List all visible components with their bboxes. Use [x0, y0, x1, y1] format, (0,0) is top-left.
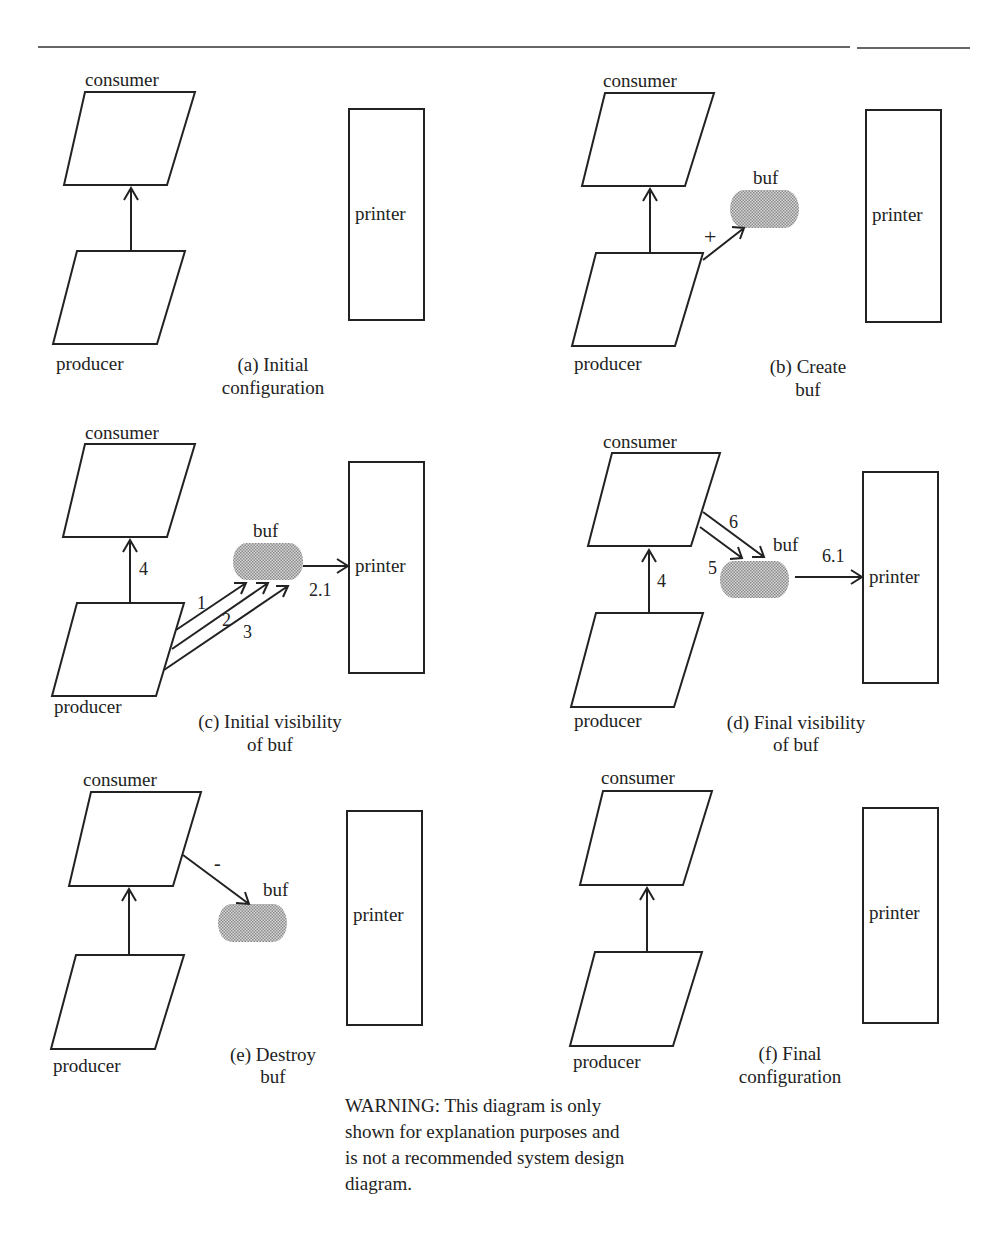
edge-producer-consumer	[642, 550, 656, 613]
create-plus-label: +	[704, 224, 716, 249]
panel-f: consumer producer printer (f) Final conf…	[570, 767, 938, 1087]
consumer-node	[63, 444, 195, 537]
edge-producer-consumer	[123, 540, 137, 603]
printer-label: printer	[869, 902, 920, 923]
printer-label: printer	[869, 566, 920, 587]
edge-producer-consumer	[643, 189, 657, 253]
edge-producer-buf-2	[172, 583, 268, 649]
producer-label: producer	[54, 696, 122, 717]
caption-line-2: configuration	[739, 1066, 842, 1087]
consumer-node	[588, 453, 720, 546]
edge-buf-printer	[795, 570, 862, 584]
consumer-label: consumer	[601, 767, 676, 788]
caption-line-1: (c) Initial visibility	[198, 711, 342, 733]
producer-label: producer	[53, 1055, 121, 1076]
printer-label: printer	[872, 204, 923, 225]
caption-line-2: buf	[795, 379, 821, 400]
consumer-node	[582, 93, 714, 186]
caption-line-1: (e) Destroy	[230, 1044, 316, 1066]
buf-node	[233, 543, 303, 580]
edge-producer-consumer	[640, 888, 654, 952]
warning-line: WARNING: This diagram is only	[345, 1093, 685, 1119]
producer-node	[571, 613, 703, 707]
edge-label-6-1: 6.1	[822, 546, 845, 566]
consumer-label: consumer	[85, 69, 160, 90]
caption-line-2: buf	[260, 1066, 286, 1087]
producer-node	[570, 952, 702, 1046]
producer-label: producer	[56, 353, 124, 374]
edge-label-3: 3	[243, 622, 252, 642]
edge-label-2-1: 2.1	[309, 580, 332, 600]
edge-label-4: 4	[657, 571, 666, 591]
buf-label: buf	[253, 520, 279, 541]
caption-line-2: of buf	[773, 734, 820, 755]
panel-c: 4 1 2 3 2.1 consumer producer buf printe…	[52, 422, 424, 755]
caption-line-1: (a) Initial	[237, 354, 308, 376]
edge-label-4: 4	[139, 559, 148, 579]
buf-label: buf	[773, 534, 799, 555]
caption-line-1: (b) Create	[770, 356, 846, 378]
warning-line: diagram.	[345, 1171, 685, 1197]
edge-label-2: 2	[222, 610, 231, 630]
edge-label-5: 5	[708, 558, 717, 578]
producer-node	[572, 253, 703, 346]
panel-d: 4 5 6 6.1 consumer producer buf printer …	[571, 431, 938, 755]
edge-label-1: 1	[197, 593, 206, 613]
figure-canvas: consumer producer printer (a) Initial co…	[0, 0, 1003, 1258]
buf-label: buf	[753, 167, 779, 188]
consumer-label: consumer	[603, 431, 678, 452]
caption-line-1: (f) Final	[759, 1043, 822, 1065]
consumer-label: consumer	[83, 769, 158, 790]
buf-node	[720, 561, 789, 598]
buf-label: buf	[263, 879, 289, 900]
edge-producer-consumer	[124, 188, 138, 251]
producer-label: producer	[573, 1051, 641, 1072]
printer-label: printer	[355, 555, 406, 576]
destroy-minus-label: -	[214, 852, 221, 874]
producer-node	[52, 603, 184, 696]
consumer-label: consumer	[85, 422, 160, 443]
producer-node	[51, 955, 184, 1049]
buf-node	[730, 190, 799, 228]
edge-label-6: 6	[729, 512, 738, 532]
consumer-node	[64, 92, 195, 185]
printer-label: printer	[355, 203, 406, 224]
producer-label: producer	[574, 353, 642, 374]
caption-line-2: of buf	[247, 734, 294, 755]
consumer-node	[69, 792, 201, 886]
producer-node	[53, 251, 185, 344]
edge-buf-printer	[303, 559, 348, 573]
buf-node	[218, 904, 287, 942]
panel-a: consumer producer printer (a) Initial co…	[53, 69, 424, 398]
printer-label: printer	[353, 904, 404, 925]
warning-line: shown for explanation purposes and	[345, 1119, 685, 1145]
producer-label: producer	[574, 710, 642, 731]
panel-e: - consumer producer buf printer (e) Dest…	[51, 769, 422, 1087]
warning-line: is not a recommended system design	[345, 1145, 685, 1171]
edge-producer-consumer	[122, 889, 136, 955]
consumer-node	[580, 791, 712, 885]
caption-line-2: configuration	[222, 377, 325, 398]
caption-line-1: (d) Final visibility	[727, 712, 866, 734]
panel-b: + consumer producer buf printer (b) Crea…	[572, 70, 941, 400]
warning-note: WARNING: This diagram is only shown for …	[345, 1093, 685, 1197]
consumer-label: consumer	[603, 70, 678, 91]
